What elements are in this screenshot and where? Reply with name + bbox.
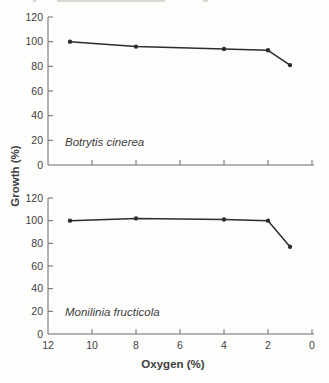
data-point — [266, 48, 270, 52]
y-tick-label: 80 — [31, 237, 43, 249]
y-tick-label: 60 — [31, 260, 43, 272]
x-tick-label: 10 — [86, 339, 98, 351]
y-tick-label: 60 — [31, 85, 43, 97]
y-tick-label: 120 — [25, 11, 43, 23]
data-point — [288, 245, 292, 249]
y-tick-label: 20 — [31, 305, 43, 317]
x-tick-label: 6 — [177, 339, 183, 351]
data-point — [288, 63, 292, 67]
scanned-figure-page: 020406080100120020406080100120121086420 … — [0, 0, 329, 383]
data-point — [68, 39, 72, 43]
y-tick-label: 120 — [25, 192, 43, 204]
x-tick-label: 8 — [133, 339, 139, 351]
y-tick-label: 100 — [25, 35, 43, 47]
data-line — [70, 42, 290, 65]
y-axis-title: Growth (%) — [9, 145, 21, 206]
data-point — [68, 218, 72, 222]
x-axis-title: Oxygen (%) — [141, 358, 204, 370]
growth-vs-oxygen-figure: 020406080100120020406080100120121086420 — [0, 0, 329, 383]
data-point — [266, 218, 270, 222]
x-tick-label: 12 — [42, 339, 54, 351]
y-tick-label: 80 — [31, 60, 43, 72]
data-point — [134, 216, 138, 220]
y-tick-label: 40 — [31, 109, 43, 121]
x-tick-label: 0 — [309, 339, 315, 351]
y-tick-label: 40 — [31, 282, 43, 294]
data-point — [222, 217, 226, 221]
data-point — [134, 44, 138, 48]
y-tick-label: 0 — [37, 159, 43, 171]
y-tick-label: 100 — [25, 214, 43, 226]
x-tick-label: 4 — [221, 339, 227, 351]
data-line — [70, 218, 290, 246]
panel-1-species-label: Botrytis cinerea — [65, 136, 144, 148]
y-tick-label: 0 — [37, 328, 43, 340]
y-tick-label: 20 — [31, 134, 43, 146]
data-point — [222, 47, 226, 51]
x-tick-label: 2 — [265, 339, 271, 351]
panel-2-species-label: Monilinia fructicola — [65, 306, 160, 318]
